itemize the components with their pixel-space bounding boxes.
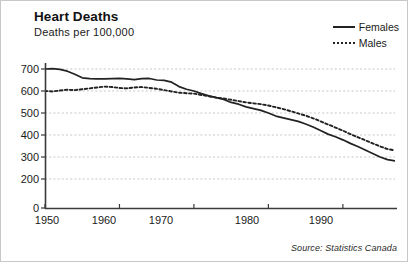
y-tick-label-0: 0: [7, 202, 39, 214]
chart-title: Heart Deaths: [34, 9, 118, 24]
legend-swatch-solid-line-icon: [333, 26, 355, 28]
gridlines: [45, 69, 395, 179]
chart-legend: Females Males: [333, 21, 399, 49]
x-tick-label-1960: 1960: [92, 214, 116, 226]
y-tick-label-400: 400: [7, 129, 39, 141]
y-tick-label-300: 300: [7, 151, 39, 163]
source-attribution: Source: Statistics Canada: [291, 243, 397, 253]
legend-item-males: Males: [333, 37, 399, 49]
series-line-males: [45, 87, 395, 151]
y-tick-label-700: 700: [7, 63, 39, 75]
legend-label-females: Females: [359, 21, 399, 33]
series-line-females: [45, 69, 395, 161]
x-tick-label-1980: 1980: [235, 214, 259, 226]
x-tick-label-1950: 1950: [35, 214, 59, 226]
legend-label-males: Males: [359, 37, 387, 49]
y-tick-label-500: 500: [7, 107, 39, 119]
chart-figure: Heart Deaths Deaths per 100,000 Females …: [0, 0, 408, 262]
x-tick-label-1970: 1970: [149, 214, 173, 226]
legend-swatch-dotted-line-icon: [333, 42, 355, 44]
plot-area: [45, 61, 395, 208]
chart-subtitle: Deaths per 100,000: [34, 26, 134, 38]
chart-svg: [45, 61, 395, 208]
legend-item-females: Females: [333, 21, 399, 33]
x-tick-label-1990: 1990: [309, 214, 333, 226]
y-tick-label-600: 600: [7, 85, 39, 97]
y-tick-label-200: 200: [7, 173, 39, 185]
